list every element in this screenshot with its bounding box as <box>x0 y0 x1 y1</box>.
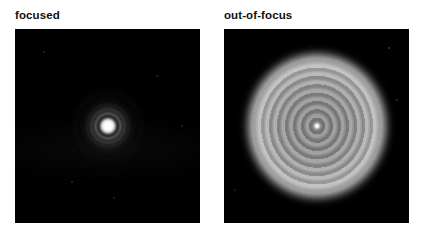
airy-outer-halo-icon <box>63 81 153 171</box>
figure-root: focused out-of-focus <box>0 0 423 234</box>
noise-speck <box>71 181 73 183</box>
noise-speck <box>113 197 115 199</box>
defocused-center-spot-icon <box>312 122 321 131</box>
defocused-interference-fringes-icon <box>249 55 385 197</box>
sensor-noise-overlay-focused <box>15 29 200 223</box>
noise-speck <box>156 75 158 77</box>
noise-speck <box>43 51 45 53</box>
panel-label-out-of-focus: out-of-focus <box>224 9 292 21</box>
panel-label-focused: focused <box>15 9 60 21</box>
noise-speck <box>181 125 183 127</box>
image-panel-out-of-focus <box>224 29 409 223</box>
noise-speck <box>388 47 390 49</box>
image-panel-focused <box>15 29 200 223</box>
noise-speck <box>234 189 236 191</box>
defocused-disk-envelope-icon <box>242 48 392 204</box>
airy-bright-core-icon <box>98 116 118 136</box>
sensor-noise-overlay-defocus <box>224 29 409 223</box>
noise-speck <box>396 99 398 101</box>
background-glow-band-focused <box>15 29 200 223</box>
airy-diffraction-rings-icon <box>84 102 132 150</box>
